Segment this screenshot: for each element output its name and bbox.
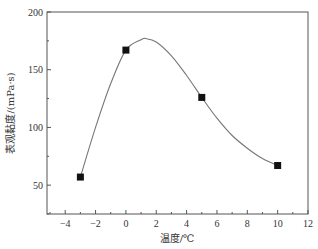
axes-frame bbox=[47, 12, 308, 214]
x-axis-label: 温度/℃ bbox=[160, 232, 195, 244]
x-tick-label: 8 bbox=[245, 218, 250, 229]
data-point-marker bbox=[77, 174, 84, 181]
chart: −4−2024681012 50100150200 温度/℃ 表观黏度/(mPa… bbox=[0, 0, 318, 249]
data-point-marker bbox=[198, 94, 205, 101]
data-point-marker bbox=[274, 162, 281, 169]
y-tick-label: 150 bbox=[28, 64, 43, 75]
x-tick-label: 0 bbox=[123, 218, 128, 229]
x-tick-label: 6 bbox=[214, 218, 219, 229]
y-axis-ticks: 50100150200 bbox=[28, 7, 51, 215]
x-tick-label: 4 bbox=[184, 218, 189, 229]
data-points bbox=[77, 47, 281, 181]
y-axis-label: 表观黏度/(mPa·s) bbox=[4, 72, 16, 153]
y-tick-label: 100 bbox=[28, 122, 43, 133]
x-tick-label: 2 bbox=[154, 218, 159, 229]
fitted-curve-line bbox=[80, 38, 277, 177]
x-axis-ticks: −4−2024681012 bbox=[50, 210, 313, 229]
y-tick-label: 50 bbox=[33, 180, 43, 191]
x-tick-label: 12 bbox=[303, 218, 313, 229]
fitted-curve bbox=[80, 38, 277, 177]
x-tick-label: −4 bbox=[60, 218, 71, 229]
y-tick-label: 200 bbox=[28, 7, 43, 18]
plot-frame bbox=[47, 12, 308, 214]
data-point-marker bbox=[122, 47, 129, 54]
x-tick-label: 10 bbox=[273, 218, 283, 229]
x-tick-label: −2 bbox=[90, 218, 101, 229]
